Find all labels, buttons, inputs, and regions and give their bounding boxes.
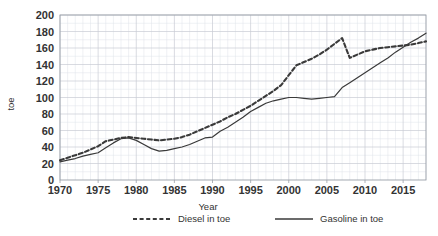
y-tick-label: 80 bbox=[42, 108, 54, 120]
y-tick-label: 140 bbox=[36, 59, 54, 71]
x-tick-label: 2000 bbox=[277, 184, 301, 196]
y-tick-label: 160 bbox=[36, 42, 54, 54]
line-chart: 020406080100120140160180200 197019751980… bbox=[0, 0, 438, 236]
y-tick-label: 100 bbox=[36, 92, 54, 104]
y-tick-label: 20 bbox=[42, 158, 54, 170]
chart-background bbox=[0, 0, 438, 236]
legend-label: Gasoline in toe bbox=[320, 213, 383, 224]
y-tick-label: 60 bbox=[42, 125, 54, 137]
x-tick-label: 1985 bbox=[162, 184, 186, 196]
y-tick-label: 200 bbox=[36, 9, 54, 21]
chart-canvas: 020406080100120140160180200 197019751980… bbox=[0, 0, 438, 236]
x-tick-label: 2015 bbox=[391, 184, 415, 196]
y-tick-label: 120 bbox=[36, 75, 54, 87]
x-tick-label: 2005 bbox=[315, 184, 339, 196]
x-tick-label: 1990 bbox=[200, 184, 224, 196]
y-tick-label: 180 bbox=[36, 26, 54, 38]
x-tick-label: 1995 bbox=[238, 184, 262, 196]
y-axis-title: toe bbox=[5, 97, 16, 110]
x-axis-title: Year bbox=[198, 201, 217, 212]
x-tick-label: 1980 bbox=[124, 184, 148, 196]
x-tick-label: 1975 bbox=[86, 184, 110, 196]
x-tick-label: 1970 bbox=[48, 184, 72, 196]
x-tick-label: 2010 bbox=[353, 184, 377, 196]
y-tick-label: 40 bbox=[42, 141, 54, 153]
legend-label: Diesel in toe bbox=[178, 213, 230, 224]
